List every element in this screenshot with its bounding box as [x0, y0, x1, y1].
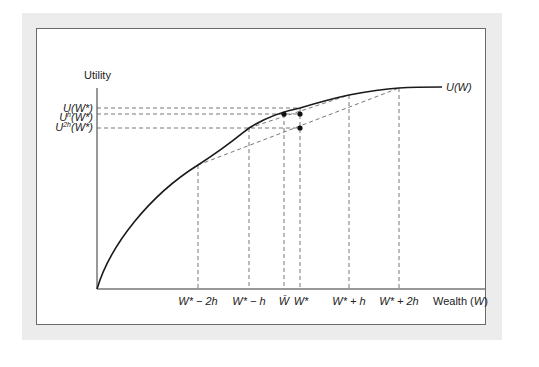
xtick-Wstar-plus-h: W* + h	[332, 295, 365, 307]
xtick-Wbar: W̄	[279, 295, 291, 307]
xtick-Wstar-plus-2h: W* + 2h	[379, 295, 418, 307]
x-axis-label: Wealth (W)	[433, 295, 488, 307]
point-U2h-at-Wstar	[297, 125, 302, 130]
xtick-Wstar: W*	[294, 295, 309, 307]
utility-curve	[97, 87, 442, 289]
point-Uh-at-Wbar	[281, 111, 286, 116]
xtick-Wstar-minus-h: W* − h	[232, 295, 265, 307]
point-Uh-at-Wstar	[297, 111, 302, 116]
chord-h	[249, 95, 349, 128]
ytick-U2h-Wstar: U2h(W*)	[55, 121, 93, 133]
vertical-guides	[198, 88, 399, 289]
utility-diagram: Utility U(W) U(W*) Uh(W*) U2h(W*) W* − 2…	[0, 0, 539, 367]
curve-label: U(W)	[446, 81, 472, 93]
xtick-Wstar-minus-2h: W* − 2h	[178, 295, 217, 307]
y-axis-label: Utility	[84, 69, 111, 81]
